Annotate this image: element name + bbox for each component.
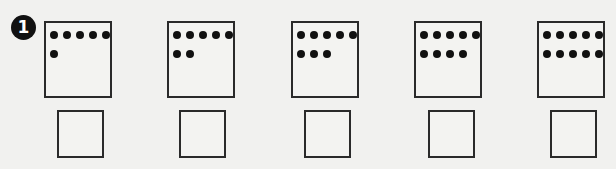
dot-icon bbox=[433, 50, 441, 58]
dot-icon bbox=[336, 31, 344, 39]
dot-icon bbox=[459, 50, 467, 58]
dot-icon bbox=[323, 50, 331, 58]
dot-frame-4 bbox=[414, 21, 482, 98]
answer-box-5[interactable] bbox=[550, 110, 597, 158]
dot-icon bbox=[556, 50, 564, 58]
dot-icon bbox=[433, 31, 441, 39]
dot-icon bbox=[310, 50, 318, 58]
dot-icon bbox=[173, 50, 181, 58]
answer-box-3[interactable] bbox=[304, 110, 351, 158]
dot-icon bbox=[50, 31, 58, 39]
dot-group bbox=[50, 31, 115, 58]
answer-box-2[interactable] bbox=[179, 110, 226, 158]
dot-group bbox=[543, 31, 608, 58]
dot-icon bbox=[50, 50, 58, 58]
dot-icon bbox=[76, 31, 84, 39]
dot-icon bbox=[323, 31, 331, 39]
answer-box-1[interactable] bbox=[57, 110, 104, 158]
dot-group bbox=[297, 31, 362, 58]
dot-group bbox=[420, 31, 485, 58]
dot-icon bbox=[543, 31, 551, 39]
dot-icon bbox=[186, 50, 194, 58]
dot-icon bbox=[225, 31, 233, 39]
dot-icon bbox=[297, 31, 305, 39]
dot-icon bbox=[349, 31, 357, 39]
dot-icon bbox=[89, 31, 97, 39]
dot-icon bbox=[595, 31, 603, 39]
dot-icon bbox=[582, 50, 590, 58]
dot-icon bbox=[186, 31, 194, 39]
dot-group bbox=[173, 31, 238, 58]
dot-icon bbox=[472, 31, 480, 39]
dot-icon bbox=[199, 31, 207, 39]
dot-icon bbox=[459, 31, 467, 39]
exercise-number: 1 bbox=[18, 19, 30, 36]
dot-icon bbox=[582, 31, 590, 39]
answer-box-4[interactable] bbox=[428, 110, 475, 158]
exercise-number-badge: 1 bbox=[11, 15, 36, 40]
dot-frame-5 bbox=[537, 21, 605, 98]
dot-frame-1 bbox=[44, 21, 112, 98]
dot-icon bbox=[420, 50, 428, 58]
dot-icon bbox=[446, 50, 454, 58]
dot-icon bbox=[569, 31, 577, 39]
dot-icon bbox=[63, 31, 71, 39]
dot-icon bbox=[310, 31, 318, 39]
dot-icon bbox=[543, 50, 551, 58]
dot-icon bbox=[212, 31, 220, 39]
dot-icon bbox=[297, 50, 305, 58]
dot-icon bbox=[595, 50, 603, 58]
dot-icon bbox=[102, 31, 110, 39]
dot-frame-3 bbox=[291, 21, 359, 98]
dot-icon bbox=[569, 50, 577, 58]
dot-icon bbox=[446, 31, 454, 39]
dot-icon bbox=[556, 31, 564, 39]
dot-icon bbox=[420, 31, 428, 39]
dot-frame-2 bbox=[167, 21, 235, 98]
dot-icon bbox=[173, 31, 181, 39]
